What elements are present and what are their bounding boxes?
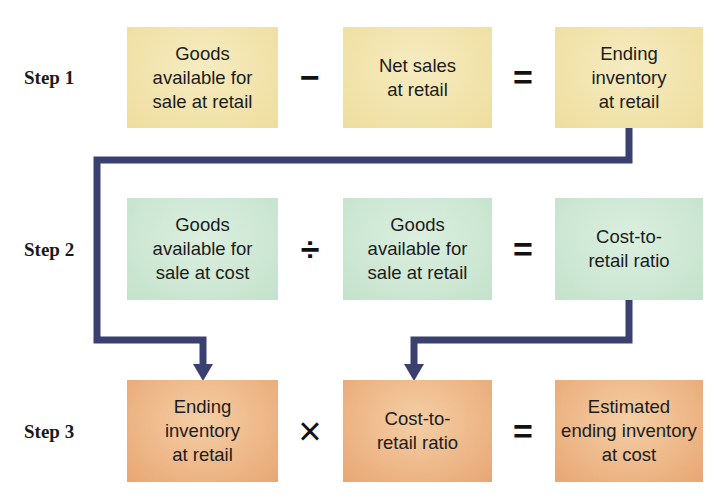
equals-operator-icon: = xyxy=(503,60,543,94)
multiply-operator-icon: × xyxy=(290,414,330,448)
box-text: Net sales at retail xyxy=(379,54,456,102)
box-text: Goods available for sale at cost xyxy=(153,213,253,285)
box-text: Ending inventory at retail xyxy=(591,42,666,114)
step-3-label: Step 3 xyxy=(24,421,104,443)
box-text: Goods available for sale at retail xyxy=(368,213,468,285)
step-2-label: Step 2 xyxy=(24,239,104,261)
box-text: Estimated ending inventory at cost xyxy=(561,395,697,467)
ending-inventory-retail-box: Ending inventory at retail xyxy=(555,27,703,128)
ending-inventory-retail-box-3: Ending inventory at retail xyxy=(127,380,278,482)
cost-to-retail-ratio-box: Cost-to- retail ratio xyxy=(555,198,703,300)
cost-to-retail-ratio-box-3: Cost-to- retail ratio xyxy=(343,380,492,482)
box-text: Ending inventory at retail xyxy=(165,395,240,467)
equals-operator-icon: = xyxy=(503,414,543,448)
arrowhead-icon xyxy=(193,364,213,381)
box-text: Cost-to- retail ratio xyxy=(377,407,458,455)
step-1-label: Step 1 xyxy=(24,67,104,89)
divide-operator-icon: ÷ xyxy=(290,232,330,266)
estimated-ending-inventory-cost-box: Estimated ending inventory at cost xyxy=(555,380,703,482)
connector-step2-to-step3 xyxy=(404,300,629,381)
arrowhead-icon xyxy=(404,364,424,381)
net-sales-retail-box: Net sales at retail xyxy=(343,27,492,128)
minus-operator-icon: − xyxy=(290,60,330,94)
box-text: Goods available for sale at retail xyxy=(153,42,253,114)
equals-operator-icon: = xyxy=(503,232,543,266)
goods-available-retail-box-2: Goods available for sale at retail xyxy=(343,198,492,300)
goods-available-cost-box: Goods available for sale at cost xyxy=(127,198,278,300)
goods-available-retail-box: Goods available for sale at retail xyxy=(127,27,278,128)
box-text: Cost-to- retail ratio xyxy=(588,225,669,273)
